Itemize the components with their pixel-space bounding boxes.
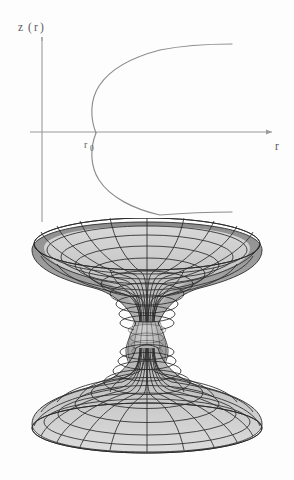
r-axis-arrowhead [266, 130, 272, 135]
throat-tick-subscript: 0 [90, 144, 94, 153]
wormhole-embedding-surface [0, 218, 294, 480]
z-axis-label-paren-close: ) [40, 21, 44, 34]
surface-canvas [0, 218, 294, 480]
curve-upper-branch [92, 44, 232, 133]
z-axis-label-paren-open: ( [28, 21, 32, 34]
z-axis-label: z [18, 21, 23, 33]
lower-funnel [32, 345, 262, 454]
plot-canvas: z ( r ) r r 0 [0, 0, 294, 222]
z-axis-label-argument: r [34, 21, 38, 33]
throat-tick-label: r [84, 139, 88, 150]
embedding-function-plot: z ( r ) r r 0 [0, 0, 294, 222]
curve-lower-branch [92, 133, 232, 215]
r-axis-label: r [275, 140, 279, 152]
upper-funnel [32, 218, 262, 331]
figure-root: z ( r ) r r 0 [0, 0, 294, 480]
